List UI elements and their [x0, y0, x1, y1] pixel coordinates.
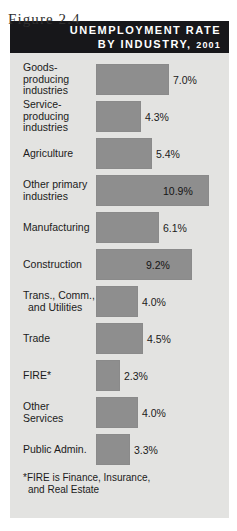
bar	[96, 323, 143, 354]
bar-value-label: 10.9%	[163, 172, 193, 209]
figure-caption: Figure 2.4	[8, 11, 81, 28]
bar-value-label: 5.4%	[156, 135, 180, 172]
bar-row: Construction9.2%	[10, 246, 229, 283]
bar	[96, 434, 130, 465]
bar-row-label-line: Construction	[23, 259, 95, 271]
bar	[96, 360, 120, 391]
bar-row: Goods-producingindustries7.0%	[10, 61, 229, 98]
footnote: *FIRE is Finance, Insurance, and Real Es…	[23, 472, 219, 496]
bar-row-label: OtherServices	[23, 394, 95, 431]
bar-row-label-line: Services	[23, 413, 95, 425]
bar-row-label: Trade	[23, 320, 95, 357]
bar-row: OtherServices4.0%	[10, 394, 229, 431]
bar-row-label-line: Trade	[23, 333, 95, 345]
bar-value-label: 9.2%	[146, 246, 170, 283]
bar-row: Trans., Comm.,and Utilities4.0%	[10, 283, 229, 320]
chart-title-year: 2001	[196, 40, 221, 50]
bar-row: Agriculture5.4%	[10, 135, 229, 172]
bar-row-label: Service-producingindustries	[23, 98, 95, 135]
bar-row-label: Construction	[23, 246, 95, 283]
bar-row: Trade4.5%	[10, 320, 229, 357]
bar-row-label-line: Agriculture	[23, 148, 95, 160]
bar	[96, 249, 192, 280]
bar	[96, 64, 169, 95]
bar-rows: Goods-producingindustries7.0%Service-pro…	[10, 61, 229, 468]
bar-row-label: Manufacturing	[23, 209, 95, 246]
footnote-line-2: and Real Estate	[23, 484, 219, 496]
bar-row-label-line: and Utilities	[23, 302, 95, 314]
bar-row-label: Goods-producingindustries	[23, 61, 95, 98]
bar	[96, 212, 159, 243]
bar-row-label-line: FIRE*	[23, 370, 95, 382]
chart-panel: Goods-producingindustries7.0%Service-pro…	[10, 53, 229, 518]
bar-value-label: 6.1%	[163, 209, 187, 246]
bar-row-label-line: industries	[23, 122, 95, 134]
bar-row-label-line: Other	[23, 401, 95, 413]
bar-value-label: 7.0%	[173, 61, 197, 98]
bar-row-label-line: Public Admin.	[23, 444, 95, 456]
bar-row-label: Trans., Comm.,and Utilities	[23, 283, 95, 320]
bar	[96, 101, 141, 132]
bar-row: Other primaryindustries10.9%	[10, 172, 229, 209]
bar-row-label: Public Admin.	[23, 431, 95, 468]
chart-title-subject: BY INDUSTRY,	[98, 38, 192, 50]
footnote-line-1: *FIRE is Finance, Insurance,	[23, 472, 219, 484]
bar-row-label-line: industries	[23, 85, 95, 97]
bar-row-label-line: Manufacturing	[23, 222, 95, 234]
bar-row-label-line: Trans., Comm.,	[23, 290, 95, 302]
chart-title-line-2: BY INDUSTRY, 2001	[98, 38, 221, 50]
bar-value-label: 4.0%	[142, 283, 166, 320]
figure-container: Figure 2.4 UNEMPLOYMENT RATE BY INDUSTRY…	[0, 0, 237, 531]
bar-value-label: 4.0%	[142, 394, 166, 431]
bar-row: Manufacturing6.1%	[10, 209, 229, 246]
bar-row-label: Other primaryindustries	[23, 172, 95, 209]
bar-value-label: 3.3%	[134, 431, 158, 468]
bar-value-label: 4.5%	[147, 320, 171, 357]
bar-row: FIRE*2.3%	[10, 357, 229, 394]
chart-title-line-1: UNEMPLOYMENT RATE	[70, 24, 221, 36]
bar	[96, 138, 152, 169]
bar-value-label: 4.3%	[145, 98, 169, 135]
bar-row-label: Agriculture	[23, 135, 95, 172]
bar-row-label-line: Other primary	[23, 179, 95, 191]
bar	[96, 286, 138, 317]
bar	[96, 397, 138, 428]
bar-value-label: 2.3%	[124, 357, 148, 394]
bar-row-label: FIRE*	[23, 357, 95, 394]
bar-row: Public Admin.3.3%	[10, 431, 229, 468]
bar-row: Service-producingindustries4.3%	[10, 98, 229, 135]
bar-row-label-line: industries	[23, 191, 95, 203]
